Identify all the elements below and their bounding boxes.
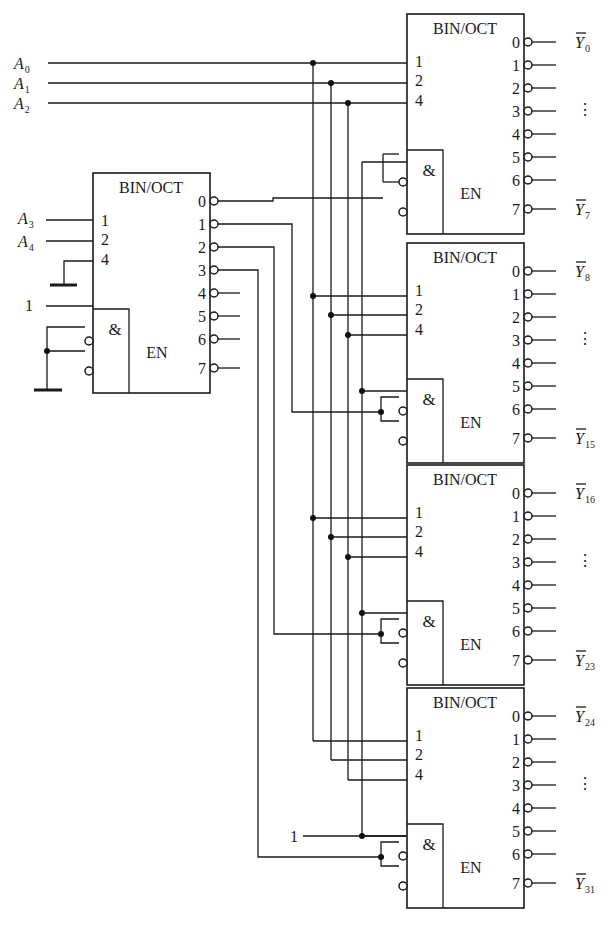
decoder-title: BIN/OCT [433,694,497,711]
output-pin-0: 0 [512,263,520,280]
output-bubble-0 [524,38,532,46]
output-label-last: Y15 [575,430,595,450]
output-pin-2: 2 [512,754,520,771]
junction-dot [345,100,351,106]
output-bubble-1 [210,220,218,228]
output-bubble-6 [524,627,532,635]
output-bubble-2 [210,243,218,251]
output-pin-1: 1 [512,508,520,525]
output-label-first: Y24 [575,708,595,728]
output-bubble-3 [524,558,532,566]
enable-bubble-1 [399,629,407,637]
ellipsis: ⋮ [577,101,593,118]
select-line-1-fork [381,397,399,421]
output-pin-1: 1 [512,286,520,303]
enable-bubble-1 [399,852,407,860]
junction-dot [328,80,334,86]
output-pin-1: 1 [512,57,520,74]
output-bubble-5 [524,827,532,835]
output-pin-3: 3 [512,554,520,571]
output-pin-4: 4 [198,285,206,302]
output-pin-3: 3 [198,262,206,279]
input-weight-1: 1 [415,282,423,299]
enable-bubble-2 [399,437,407,445]
output-label-first: Y8 [575,263,590,283]
output-bubble-6 [524,176,532,184]
junction-dot [310,60,316,66]
output-pin-6: 6 [198,331,206,348]
output-pin-4: 4 [512,126,520,143]
input-weight-2: 2 [415,746,423,763]
input-weight-4: 4 [415,321,423,338]
wire-enable-gnd [47,327,85,351]
input-weight-1: 1 [415,53,423,70]
output-pin-5: 5 [198,308,206,325]
junction-dot [328,312,334,318]
ellipsis: ⋮ [577,552,593,569]
select-line-2 [218,247,381,634]
output-pin-4: 4 [512,800,520,817]
output-pin-3: 3 [512,332,520,349]
junction-dot [378,854,384,860]
output-pin-2: 2 [512,531,520,548]
enable-bubble-2 [399,208,407,216]
output-bubble-6 [210,335,218,343]
output-pin-0: 0 [512,485,520,502]
output-bubble-5 [524,604,532,612]
input-label-a4: A4 [17,233,34,253]
input-weight-4: 4 [415,766,423,783]
junction-dot [359,833,365,839]
input-label-a2: A2 [13,95,30,115]
input-weight-4: 4 [415,92,423,109]
output-bubble-7 [524,205,532,213]
input-weight-2: 2 [101,231,109,248]
output-pin-0: 0 [512,34,520,51]
output-bubble-0 [524,489,532,497]
output-pin-7: 7 [512,652,520,669]
output-bubble-7 [524,434,532,442]
decoder-title: BIN/OCT [433,20,497,37]
output-bubble-4 [524,581,532,589]
output-pin-1: 1 [512,731,520,748]
output-pin-7: 7 [512,201,520,218]
output-bubble-3 [210,266,218,274]
output-bubble-6 [524,405,532,413]
output-pin-0: 0 [512,708,520,725]
output-pin-4: 4 [512,355,520,372]
output-pin-3: 3 [512,103,520,120]
junction-dot [359,388,365,394]
enable-bubble-2 [85,367,93,375]
output-bubble-4 [524,804,532,812]
output-bubble-0 [524,712,532,720]
enable-label: EN [460,414,482,431]
input-label-a3: A3 [17,210,34,230]
and-symbol: & [422,390,435,409]
output-bubble-7 [524,656,532,664]
output-pin-1: 1 [198,216,206,233]
output-pin-6: 6 [512,401,520,418]
output-pin-5: 5 [512,378,520,395]
output-pin-4: 4 [512,577,520,594]
output-bubble-2 [524,535,532,543]
input-label-a1: A1 [13,75,30,95]
output-bubble-3 [524,781,532,789]
output-bubble-0 [210,197,218,205]
ellipsis: ⋮ [577,775,593,792]
output-bubble-2 [524,758,532,766]
enable-bubble-2 [399,882,407,890]
output-label-last: Y7 [575,201,590,221]
decoder-title: BIN/OCT [119,179,183,196]
output-bubble-3 [524,336,532,344]
input-weight-2: 2 [415,523,423,540]
junction-dot [378,631,384,637]
output-bubble-7 [524,879,532,887]
input-weight-2: 2 [415,301,423,318]
output-pin-5: 5 [512,600,520,617]
output-pin-6: 6 [512,846,520,863]
output-bubble-4 [210,289,218,297]
and-symbol: & [422,835,435,854]
input-weight-4: 4 [415,543,423,560]
output-pin-2: 2 [512,80,520,97]
output-bubble-4 [524,359,532,367]
junction-dot [310,515,316,521]
